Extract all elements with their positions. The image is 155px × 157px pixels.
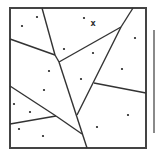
voronoi-edge — [10, 116, 56, 124]
voronoi-edge — [10, 39, 55, 55]
site-point — [43, 89, 45, 91]
site-point — [127, 114, 129, 116]
site-point — [29, 111, 31, 113]
side-bar — [153, 30, 155, 133]
query-point-marker: x — [90, 19, 96, 28]
voronoi-edge — [42, 8, 55, 55]
site-point — [80, 78, 82, 80]
voronoi-diagram: x — [0, 0, 155, 157]
voronoi-edge — [55, 55, 59, 62]
site-point — [134, 37, 136, 39]
site-point — [21, 25, 23, 27]
site-point — [36, 16, 38, 18]
site-point — [96, 126, 98, 128]
site-point — [48, 70, 50, 72]
site-point — [83, 17, 85, 19]
site-point — [42, 135, 44, 137]
voronoi-edge — [121, 8, 133, 27]
site-point — [92, 52, 94, 54]
voronoi-edges — [10, 8, 146, 148]
site-point — [121, 68, 123, 70]
site-point — [13, 103, 15, 105]
voronoi-edge — [59, 62, 87, 148]
diagram-border — [10, 8, 146, 148]
site-point — [18, 128, 20, 130]
site-point — [63, 48, 65, 50]
voronoi-edge — [10, 86, 56, 116]
voronoi-edge — [94, 83, 146, 93]
